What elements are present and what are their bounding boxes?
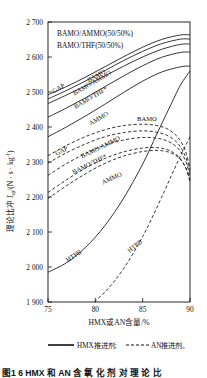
y-tick-label: 1 900 xyxy=(26,298,43,307)
box-label-bamo-thf: BAMO/THF(50/50%) xyxy=(57,41,124,50)
y-tick-label: 2 200 xyxy=(26,193,43,202)
y-axis-title-units: /(N · s · kg xyxy=(6,157,15,191)
figure-container: 1 9002 0002 1002 2002 3002 4002 5002 600… xyxy=(0,0,207,378)
y-tick-label: 2 400 xyxy=(26,123,43,132)
legend-label-an: AN推进剂。 xyxy=(151,341,189,350)
y-tick-label: 2 700 xyxy=(26,18,43,27)
curve-label-bamo-an: BAMO xyxy=(137,115,157,122)
y-tick-label: 2 100 xyxy=(26,228,43,237)
x-axis-title: HMX或AN含量/% xyxy=(88,317,150,327)
y-tick-label: 2 500 xyxy=(26,88,43,97)
y-tick-label: 2 600 xyxy=(26,53,43,62)
x-tick-label: 80 xyxy=(92,305,100,314)
box-label-bamo-ammo: BAMO/AMMO(50/50%) xyxy=(57,29,133,38)
x-tick-label: 90 xyxy=(186,305,194,314)
isp-vs-oxidizer-chart: 1 9002 0002 1002 2002 3002 4002 5002 600… xyxy=(0,0,207,378)
y-tick-label: 2 000 xyxy=(26,263,43,272)
y-axis-title-suffix: ) xyxy=(6,150,15,153)
svg-text:理论比冲 Isp/(N · s · kg-1): 理论比冲 Isp/(N · s · kg-1) xyxy=(5,150,16,232)
x-tick-label: 85 xyxy=(139,305,147,314)
y-tick-label: 2 300 xyxy=(26,158,43,167)
x-tick-label: 75 xyxy=(44,305,52,314)
legend: HMX推进剂; AN推进剂。 xyxy=(48,341,189,350)
legend-label-hmx: HMX推进剂; xyxy=(77,341,117,350)
y-axis-title: 理论比冲 Isp/(N · s · kg-1) xyxy=(5,150,16,232)
figure-caption: 图1 6 HMX 和 AN 含 氧 化 剂 对 理 论 比 xyxy=(2,367,162,378)
y-axis-title-prefix: 理论比冲 xyxy=(5,198,15,232)
